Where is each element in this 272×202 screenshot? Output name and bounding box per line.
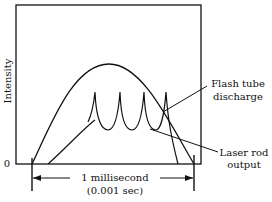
y-axis-label: Intensity: [2, 58, 13, 103]
y-origin-label: 0: [4, 158, 10, 169]
duration-label-line1: 1 millisecond: [81, 172, 149, 183]
laser-rod-label-line2: output: [227, 159, 260, 170]
arrowhead-right-icon: [185, 175, 193, 181]
duration-label-line2: (0.001 sec): [87, 185, 143, 196]
laser-rod-label-line1: Laser rod: [220, 147, 269, 158]
laser-rod-curve: [48, 92, 178, 164]
flash-tube-label-line2: discharge: [213, 91, 263, 102]
flash-tube-label-line1: Flash tube: [211, 78, 265, 89]
arrowhead-left-icon: [33, 175, 41, 181]
flash-tube-curve: [32, 64, 194, 164]
laser-pulse-diagram: Intensity 0 Flash tube discharge Laser r…: [0, 0, 272, 202]
laser-rod-leader: [150, 129, 218, 152]
